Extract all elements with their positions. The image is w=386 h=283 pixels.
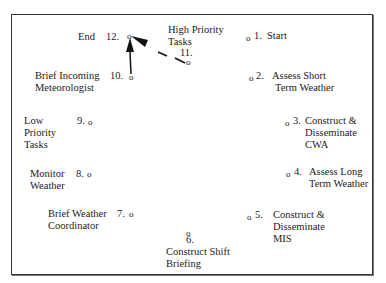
node-12-marker: o (127, 32, 132, 41)
node-5-label-line2: Disseminate (273, 221, 325, 234)
node-7-label-line2: Coordinator (48, 220, 99, 233)
node-10-label-line1: Brief Incoming (35, 70, 99, 83)
node-5-marker: o (247, 213, 252, 222)
node-3-marker: o (285, 119, 290, 128)
node-2-marker: o (249, 74, 254, 83)
node-12-number: 12. (106, 31, 119, 44)
node-8-label-line1: Monitor (30, 168, 64, 181)
node-2-number: 2. (256, 70, 264, 83)
node-4-label-line1: Assess Long (309, 166, 362, 179)
node-1-label: Start (267, 30, 287, 43)
node-1-marker: o (246, 34, 251, 43)
node-4-number: 4. (294, 166, 302, 179)
node-5-label-line3: MIS (273, 233, 292, 246)
node-3-label-line2: Disseminate (305, 127, 357, 140)
arrow-10-to-12 (130, 52, 131, 74)
node-5-number: 5. (255, 209, 263, 222)
node-8-number: 8. (76, 168, 84, 181)
node-2-label-line2: Term Weather (275, 82, 334, 95)
node-10-marker: o (129, 73, 134, 82)
node-8-marker: o (87, 170, 92, 179)
node-12-label: End (78, 31, 95, 44)
node-4-marker: o (286, 170, 291, 179)
node-11-marker: o (186, 58, 191, 67)
node-3-label-line1: Construct & (305, 115, 357, 128)
node-11-label-line1: High Priority (168, 24, 224, 37)
node-6-label-line2: Briefing (166, 258, 201, 271)
node-5-label-line1: Construct & (273, 209, 325, 222)
node-3-number: 3. (293, 115, 301, 128)
node-9-label-line1: Low (24, 115, 43, 128)
node-7-label-line1: Brief Weather (48, 208, 107, 221)
node-4-label-line2: Term Weather (309, 178, 368, 191)
node-3-label-line3: CWA (305, 139, 328, 152)
arrow-11-to-12-dash (158, 52, 167, 56)
node-9-label-line2: Priority (24, 127, 56, 140)
node-6-label-line1: Construct Shift (166, 246, 230, 259)
node-7-marker: o (129, 210, 134, 219)
node-10-number: 10. (110, 70, 123, 83)
node-9-number: 9. (77, 115, 85, 128)
node-2-label-line1: Assess Short (272, 70, 326, 83)
node-10-label-line2: Meteorologist (35, 82, 94, 95)
node-8-label-line2: Weather (30, 180, 65, 193)
arrowhead-left-icon (131, 36, 148, 47)
node-1-number: 1. (254, 30, 262, 43)
node-9-marker: o (88, 118, 93, 127)
node-7-number: 7. (117, 208, 125, 221)
node-9-label-line3: Tasks (24, 139, 48, 152)
node-6-number: 6. (186, 234, 194, 247)
